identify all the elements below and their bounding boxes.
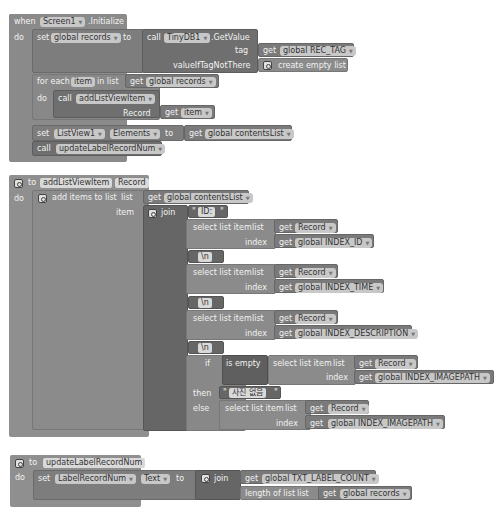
when-label: when (14, 16, 36, 27)
chevron-down-icon: ▼ (329, 225, 333, 231)
list-label: list (333, 358, 345, 369)
procedure-name-field[interactable]: addListViewItem (40, 178, 112, 188)
mutator-gear-icon[interactable] (263, 61, 272, 70)
in-list-label: in list (97, 76, 119, 87)
tag-label: tag (235, 45, 248, 56)
select-list-item-label: select list item (193, 222, 252, 233)
text-newline-field[interactable]: \n (198, 252, 212, 262)
variable-dropdown-record[interactable]: Record▼ (328, 404, 369, 414)
call-label: call (147, 32, 161, 43)
list-label: list (252, 313, 264, 324)
variable-dropdown-item[interactable]: item▼ (181, 108, 212, 118)
join-block[interactable] (143, 205, 188, 431)
index-label: index (245, 328, 267, 339)
variable-dropdown-index-imagepath[interactable]: global INDEX_IMAGEPATH▼ (375, 373, 490, 383)
mutator-gear-icon[interactable] (15, 459, 24, 468)
chevron-down-icon: ▼ (98, 131, 102, 137)
to-label: to (176, 473, 184, 484)
get-label: get (130, 76, 143, 87)
get-label: get (279, 313, 292, 324)
chevron-down-icon: ▼ (483, 375, 487, 381)
index-label: index (326, 372, 348, 383)
select-list-item-label: select list item (193, 313, 252, 324)
variable-dropdown-record[interactable]: Record▼ (295, 268, 336, 278)
property-dropdown-elements[interactable]: Elements▼ (110, 129, 160, 139)
list-label: list (297, 488, 309, 499)
chevron-down-icon: ▼ (114, 35, 118, 41)
get-label: get (279, 237, 292, 248)
component-dropdown-listview1[interactable]: ListView1▼ (54, 129, 105, 139)
chevron-down-icon: ▼ (163, 476, 167, 482)
get-label: get (310, 418, 323, 429)
get-label: get (165, 107, 178, 118)
procedure-name-field[interactable]: updateLabelRecordNum (43, 458, 145, 468)
variable-dropdown-index-imagepath[interactable]: global INDEX_IMAGEPATH▼ (328, 419, 443, 429)
to-label: to (165, 128, 173, 139)
variable-dropdown-rec-tag[interactable]: global REC_TAG▼ (280, 46, 356, 56)
chevron-down-icon: ▼ (349, 48, 353, 54)
is-empty-label: is empty (226, 358, 261, 369)
join-label: join (214, 473, 228, 484)
variable-dropdown-contentslist[interactable]: global contentsList▼ (164, 193, 253, 203)
get-label: get (189, 128, 202, 139)
chevron-down-icon: ▼ (411, 331, 415, 337)
chevron-down-icon: ▼ (129, 476, 133, 482)
to-label: to (29, 457, 37, 468)
variable-dropdown-records[interactable]: global records▼ (146, 77, 216, 87)
index-label: index (245, 237, 267, 248)
text-id-field[interactable]: ID: (198, 207, 215, 217)
get-label: get (359, 358, 372, 369)
add-items-to-list-block[interactable] (32, 190, 148, 430)
variable-dropdown-records[interactable]: global records▼ (51, 33, 121, 43)
variable-dropdown-record[interactable]: Record▼ (295, 223, 336, 233)
item-label: item (116, 207, 134, 218)
variable-dropdown-txt-label-count[interactable]: global TXT_LABEL_COUNT▼ (262, 474, 379, 484)
variable-dropdown-index-description[interactable]: global INDEX_DESCRIPTION▼ (295, 329, 418, 339)
event-name: .Initialize (88, 16, 124, 27)
set-label: set (38, 473, 50, 484)
get-label: get (279, 282, 292, 293)
mutator-gear-icon[interactable] (201, 474, 210, 483)
chevron-down-icon: ▼ (209, 79, 213, 85)
variable-dropdown-contentslist[interactable]: global contentsList▼ (205, 129, 294, 139)
chevron-down-icon: ▼ (409, 361, 413, 367)
chevron-down-icon: ▼ (366, 240, 370, 246)
variable-dropdown-record[interactable]: Record▼ (295, 314, 336, 324)
variable-dropdown-index-time[interactable]: global INDEX_TIME▼ (295, 283, 383, 293)
variable-dropdown-record[interactable]: Record▼ (375, 359, 416, 369)
do-label: do (15, 472, 25, 483)
component-dropdown-screen1[interactable]: Screen1▼ (40, 17, 85, 27)
length-of-list-label: length of list (245, 488, 295, 499)
mutator-gear-icon[interactable] (38, 194, 47, 203)
text-newline-field[interactable]: \n (198, 298, 212, 308)
property-dropdown-text[interactable]: Text▼ (141, 474, 170, 484)
get-label: get (245, 473, 258, 484)
variable-dropdown-records[interactable]: global records▼ (340, 489, 410, 499)
text-no-photo-field[interactable]: 사진 없음 (229, 388, 266, 398)
parameter-record-field[interactable]: Record (115, 178, 149, 188)
mutator-gear-icon[interactable] (148, 209, 157, 218)
component-dropdown-labelrecordnum[interactable]: LabelRecordNum▼ (55, 474, 136, 484)
component-dropdown-tinydb[interactable]: TinyDB1▼ (164, 33, 210, 43)
chevron-down-icon: ▼ (287, 131, 291, 137)
call-label: call (58, 93, 72, 104)
do-label: do (14, 32, 24, 43)
value-if-tag-not-there-label: valueIfTagNotThere (173, 60, 251, 71)
get-label: get (263, 45, 276, 56)
chevron-down-icon: ▼ (329, 270, 333, 276)
quote-close: " (220, 206, 224, 217)
chevron-down-icon: ▼ (153, 131, 157, 137)
list-label: list (121, 192, 133, 203)
get-label: get (148, 192, 161, 203)
text-newline-field[interactable]: \n (198, 343, 212, 353)
loop-variable-item[interactable]: item (71, 77, 95, 87)
chevron-down-icon: ▼ (329, 316, 333, 322)
chevron-down-icon: ▼ (203, 35, 207, 41)
chevron-down-icon: ▼ (148, 96, 152, 102)
procedure-dropdown-updatelabelrecordnum[interactable]: updateLabelRecordNum▼ (56, 144, 165, 154)
procedure-dropdown-addlistviewitem[interactable]: addListViewItem▼ (76, 94, 155, 104)
list-label: list (252, 267, 264, 278)
list-label: list (285, 403, 297, 414)
variable-dropdown-index-id[interactable]: global INDEX_ID▼ (295, 238, 372, 248)
mutator-gear-icon[interactable] (14, 179, 23, 188)
